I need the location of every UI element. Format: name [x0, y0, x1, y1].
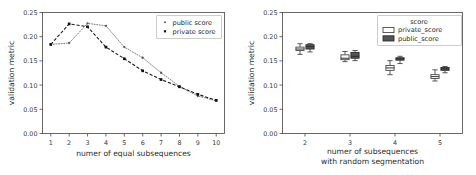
legend-marker-private-icon: [164, 30, 166, 32]
left-x-axis: 12345678910: [49, 134, 221, 147]
left-yaxis-label: validation metric: [7, 41, 16, 105]
right-box-chart-panel: 0.00 0.05 0.10 0.15 0.20 0.25 2345 numer…: [238, 0, 476, 175]
right-ytick-0: 0.00: [263, 130, 277, 138]
right-legend-label-public[interactable]: public_score: [398, 35, 439, 43]
left-line-chart-svg: 0.00 0.05 0.10 0.15 0.20 0.25 1234567891…: [0, 0, 238, 175]
right-xtick-label-1: 3: [348, 139, 352, 147]
left-private-point-8: [196, 93, 199, 96]
right-xtick-label-3: 5: [438, 139, 442, 147]
left-ytick-2: 0.10: [23, 82, 37, 90]
left-public-point-4: [123, 46, 125, 48]
box-body: [351, 52, 359, 58]
left-xtick-label-1: 2: [67, 139, 71, 147]
left-private-point-5: [141, 69, 144, 72]
left-y-axis: 0.00 0.05 0.10 0.15 0.20 0.25: [23, 9, 42, 138]
left-xtick-label-6: 7: [159, 139, 163, 147]
left-private-point-7: [178, 85, 181, 88]
left-xtick-label-8: 9: [196, 139, 200, 147]
left-xtick-label-3: 4: [104, 139, 108, 147]
left-private-point-0: [49, 43, 52, 46]
right-xtick-label-0: 2: [303, 139, 307, 147]
right-yaxis-label: validation metric: [247, 41, 256, 105]
legend-swatch-public-score-icon: [383, 36, 394, 41]
left-public-point-6: [160, 72, 162, 74]
left-legend-label-private[interactable]: private score: [173, 28, 216, 36]
legend-swatch-private-score-icon: [383, 27, 394, 32]
left-public-point-5: [142, 57, 144, 59]
right-y-axis: 0.00 0.05 0.10 0.15 0.20 0.25: [263, 9, 282, 138]
left-ytick-4: 0.20: [23, 33, 37, 41]
right-x-axis: 2345: [303, 134, 442, 147]
left-private-point-3: [105, 46, 108, 49]
right-xaxis-label-line2: with random segmentation: [321, 157, 424, 166]
left-private-point-2: [86, 25, 89, 28]
left-private-point-4: [123, 57, 126, 60]
left-ytick-3: 0.15: [23, 57, 37, 65]
left-line-chart-panel: 0.00 0.05 0.10 0.15 0.20 0.25 1234567891…: [0, 0, 238, 175]
figure-container: 0.00 0.05 0.10 0.15 0.20 0.25 1234567891…: [0, 0, 476, 175]
left-ytick-1: 0.05: [23, 106, 37, 114]
right-xtick-label-2: 4: [393, 139, 397, 147]
legend-marker-public-icon: [164, 21, 166, 23]
left-legend-label-public[interactable]: public score: [173, 19, 213, 27]
left-xtick-label-7: 8: [177, 139, 181, 147]
left-private-point-1: [68, 23, 71, 26]
right-legend-title: score: [410, 18, 428, 26]
left-xtick-label-0: 1: [49, 139, 53, 147]
box-body: [341, 55, 349, 60]
left-public-point-3: [105, 25, 107, 27]
right-ytick-5: 0.25: [263, 9, 277, 17]
left-private-point-9: [215, 99, 218, 102]
right-ytick-3: 0.15: [263, 57, 277, 65]
right-ytick-4: 0.20: [263, 33, 277, 41]
left-xtick-label-9: 10: [212, 139, 220, 147]
left-xtick-label-2: 3: [86, 139, 90, 147]
left-xtick-label-4: 5: [122, 139, 126, 147]
right-legend-label-private[interactable]: private_score: [398, 26, 442, 34]
left-public-point-1: [68, 42, 70, 44]
right-ytick-1: 0.05: [263, 106, 277, 114]
left-private-point-6: [160, 78, 163, 81]
right-ytick-2: 0.10: [263, 82, 277, 90]
left-legend: public score private score: [157, 16, 222, 39]
right-xaxis-label-line1: numer of subsequences: [327, 147, 418, 156]
left-xaxis-label: numer of equal subsequences: [76, 149, 191, 158]
left-public-point-2: [86, 22, 88, 24]
left-xtick-label-5: 6: [141, 139, 145, 147]
right-legend: score private_score public_score: [378, 16, 462, 46]
left-ytick-0: 0.00: [23, 130, 37, 138]
left-ytick-5: 0.25: [23, 9, 37, 17]
right-box-chart-svg: 0.00 0.05 0.10 0.15 0.20 0.25 2345 numer…: [238, 0, 476, 175]
